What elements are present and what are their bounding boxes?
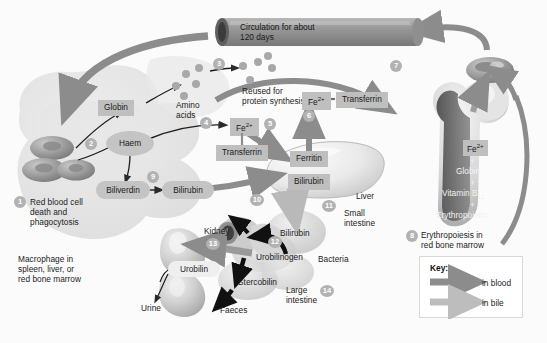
step-badge-1: 1 — [14, 196, 26, 208]
large-intestine-label: Large intestine — [286, 285, 317, 305]
bacteria-label: Bacteria — [318, 254, 349, 264]
iron-chip-top: Fe2+ — [302, 92, 331, 110]
marrow-plus-1: + — [470, 156, 475, 166]
key-label-bile: in bile — [482, 298, 504, 308]
step-badge-14: 14 — [320, 285, 334, 297]
stercobilin-label: Stercobilin — [238, 277, 277, 287]
rbc-death-label: Red blood cell death and phagocytosis — [30, 197, 83, 227]
step-badge-4: 4 — [200, 117, 212, 129]
step-badge-3: 3 — [213, 58, 225, 70]
transferrin-chip-top: Transferrin — [336, 92, 388, 108]
step-badge-2: 2 — [85, 138, 97, 150]
transferrin-chip-middle: Transferrin — [216, 145, 268, 161]
kidney-label: Kidney — [204, 226, 230, 236]
key-legend-panel: Key: in blood in bile — [419, 256, 523, 318]
macrophage-label: Macrophage in spleen, liver, or red bone… — [18, 254, 81, 284]
step-badge-8: 8 — [406, 230, 418, 242]
marrow-plus-2: + — [470, 178, 475, 188]
step-badge-6: 6 — [303, 110, 315, 122]
step-badge-5: 5 — [264, 118, 276, 130]
urobilinogen-label: Urobilinogen — [256, 252, 303, 262]
marrow-globin-label: Globin — [456, 166, 480, 176]
key-arrows — [420, 257, 524, 319]
liver-label: Liver — [356, 191, 374, 201]
step-badge-9: 9 — [147, 171, 159, 183]
step-badge-7: 7 — [390, 60, 402, 72]
marrow-iron-chip: Fe2+ — [463, 140, 488, 156]
marrow-vitamin-label: Vitamin B12 — [442, 188, 484, 202]
bilirubin-liver-chip: Bilirubin — [288, 174, 330, 190]
diagram-canvas: Circulation for about 120 days Globin Ha… — [0, 0, 547, 343]
small-intestine-label: Small intestine — [344, 208, 375, 228]
erythropoiesis-label: Erythropoiesis in red bone marrow — [421, 230, 484, 250]
step-badge-10: 10 — [250, 194, 264, 206]
key-label-blood: in blood — [482, 278, 511, 288]
ferritin-chip: Ferritin — [290, 151, 328, 167]
faeces-label: Faeces — [220, 305, 247, 315]
step-badge-11: 11 — [322, 200, 336, 212]
marrow-epo-label: Erythropoietin — [436, 210, 487, 220]
urine-label: Urine — [141, 303, 161, 313]
urobilin-chip: Urobilin — [168, 261, 220, 277]
step-badge-12: 12 — [268, 236, 282, 248]
marrow-plus-3: + — [470, 200, 475, 210]
bilirubin-gut-label: Bilirubin — [280, 228, 310, 238]
step-badge-13: 13 — [206, 238, 220, 250]
